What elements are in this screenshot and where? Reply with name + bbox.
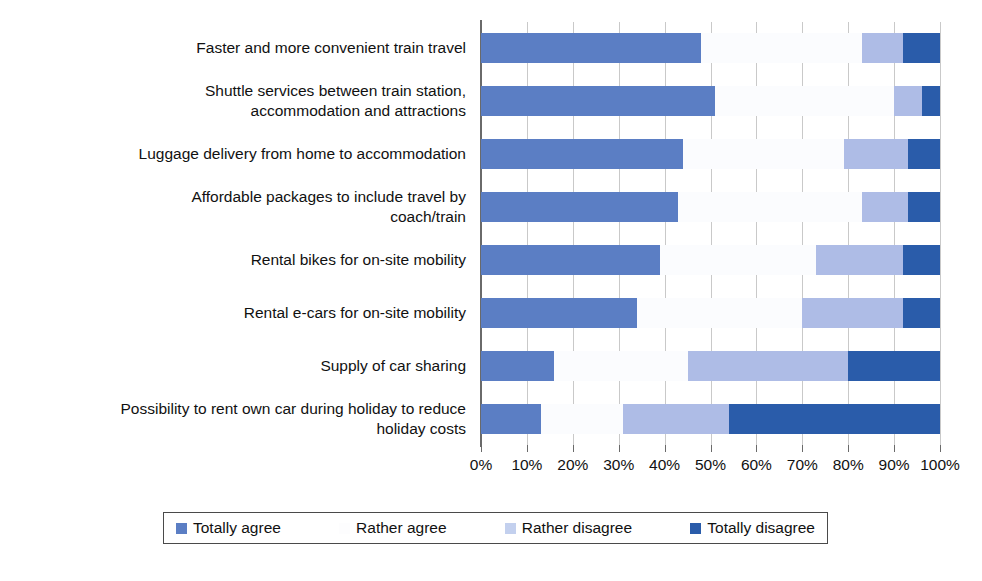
bar-segment bbox=[481, 298, 637, 328]
category-label: Possibility to rent own car during holid… bbox=[0, 399, 466, 439]
axis-tick bbox=[573, 445, 574, 452]
bar-rows bbox=[481, 22, 940, 445]
legend-swatch-icon bbox=[505, 523, 516, 534]
bar-segment bbox=[894, 86, 922, 116]
legend-item[interactable]: Totally disagree bbox=[690, 518, 815, 538]
bar-segment bbox=[481, 86, 715, 116]
bar-row bbox=[481, 245, 940, 275]
bar-row bbox=[481, 86, 940, 116]
legend-swatch-icon bbox=[339, 523, 350, 534]
axis-tick bbox=[848, 445, 849, 452]
plot-area bbox=[481, 22, 940, 445]
bar-segment bbox=[481, 404, 541, 434]
bar-row bbox=[481, 298, 940, 328]
legend-label: Totally agree bbox=[193, 518, 281, 538]
bar-segment bbox=[922, 86, 940, 116]
bar-row bbox=[481, 139, 940, 169]
category-axis-labels: Faster and more convenient train travelS… bbox=[0, 22, 474, 445]
bar-segment bbox=[908, 139, 940, 169]
axis-tick-label: 90% bbox=[879, 455, 910, 475]
x-axis-tick-labels: 0%10%20%30%40%50%60%70%80%90%100% bbox=[0, 455, 982, 477]
stacked-bar-chart: Faster and more convenient train travelS… bbox=[0, 0, 982, 581]
bar-segment bbox=[862, 192, 908, 222]
axis-tick-label: 70% bbox=[787, 455, 818, 475]
axis-tick-label: 20% bbox=[557, 455, 588, 475]
category-label: Faster and more convenient train travel bbox=[0, 38, 466, 58]
axis-tick-label: 50% bbox=[695, 455, 726, 475]
bar-segment bbox=[554, 351, 687, 381]
category-label: Rental e-cars for on-site mobility bbox=[0, 303, 466, 323]
axis-tick bbox=[894, 445, 895, 452]
x-axis-tick-marks bbox=[481, 445, 940, 452]
axis-tick bbox=[527, 445, 528, 452]
bar-segment bbox=[678, 192, 862, 222]
axis-tick bbox=[665, 445, 666, 452]
bar-segment bbox=[637, 298, 802, 328]
bar-row bbox=[481, 351, 940, 381]
axis-tick-label: 60% bbox=[741, 455, 772, 475]
gridline bbox=[940, 22, 941, 445]
legend-label: Rather disagree bbox=[522, 518, 632, 538]
bar-segment bbox=[683, 139, 844, 169]
category-label: Rental bikes for on-site mobility bbox=[0, 250, 466, 270]
bar-segment bbox=[715, 86, 894, 116]
axis-tick-label: 100% bbox=[920, 455, 960, 475]
legend-item[interactable]: Totally agree bbox=[176, 518, 281, 538]
axis-tick bbox=[802, 445, 803, 452]
bar-segment bbox=[802, 298, 903, 328]
axis-tick-label: 10% bbox=[511, 455, 542, 475]
axis-tick-label: 40% bbox=[649, 455, 680, 475]
bar-segment bbox=[844, 139, 908, 169]
bar-segment bbox=[903, 245, 940, 275]
legend-item[interactable]: Rather disagree bbox=[505, 518, 632, 538]
chart-legend: Totally agreeRather agreeRather disagree… bbox=[163, 512, 828, 544]
category-label: Shuttle services between train station, … bbox=[0, 81, 466, 121]
bar-segment bbox=[848, 351, 940, 381]
axis-tick-label: 30% bbox=[603, 455, 634, 475]
category-label: Affordable packages to include travel by… bbox=[0, 187, 466, 227]
axis-tick bbox=[711, 445, 712, 452]
axis-tick-label: 80% bbox=[833, 455, 864, 475]
legend-swatch-icon bbox=[690, 523, 701, 534]
category-label: Supply of car sharing bbox=[0, 356, 466, 376]
bar-segment bbox=[481, 192, 678, 222]
legend-swatch-icon bbox=[176, 523, 187, 534]
axis-tick bbox=[756, 445, 757, 452]
legend-item[interactable]: Rather agree bbox=[339, 518, 446, 538]
category-label: Luggage delivery from home to accommodat… bbox=[0, 144, 466, 164]
axis-tick bbox=[940, 445, 941, 452]
axis-tick-label: 0% bbox=[470, 455, 492, 475]
bar-segment bbox=[816, 245, 903, 275]
bar-segment bbox=[688, 351, 849, 381]
bar-segment bbox=[541, 404, 624, 434]
bar-row bbox=[481, 33, 940, 63]
bar-row bbox=[481, 404, 940, 434]
bar-segment bbox=[481, 33, 701, 63]
axis-tick bbox=[619, 445, 620, 452]
bar-segment bbox=[908, 192, 940, 222]
axis-tick bbox=[481, 445, 482, 452]
bar-segment bbox=[701, 33, 862, 63]
bar-segment bbox=[481, 139, 683, 169]
bar-segment bbox=[481, 245, 660, 275]
bar-segment bbox=[623, 404, 729, 434]
legend-label: Rather agree bbox=[356, 518, 446, 538]
bar-segment bbox=[660, 245, 816, 275]
bar-segment bbox=[862, 33, 903, 63]
bar-segment bbox=[903, 298, 940, 328]
bar-row bbox=[481, 192, 940, 222]
bar-segment bbox=[481, 351, 554, 381]
bar-segment bbox=[903, 33, 940, 63]
legend-label: Totally disagree bbox=[707, 518, 815, 538]
bar-segment bbox=[729, 404, 940, 434]
